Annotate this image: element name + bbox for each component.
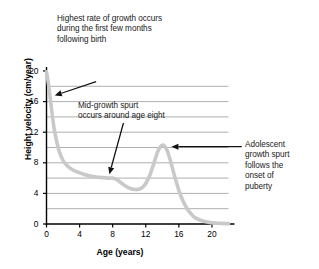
mid-growth-annotation-arrow-shaft — [111, 123, 123, 168]
infancy-annotation-arrow-shaft — [61, 82, 96, 94]
infancy-annotation-arrow-head — [55, 90, 63, 96]
y-tick-label: 16 — [23, 96, 39, 106]
x-tick-label: 20 — [204, 229, 220, 239]
y-tick-label: 20 — [23, 66, 39, 76]
x-tick-label: 16 — [171, 229, 187, 239]
adolescent-annotation-arrow-head — [171, 144, 178, 150]
growth-velocity-chart-page: { "chart_data": { "type": "line", "title… — [0, 0, 319, 269]
x-tick-label: 8 — [105, 229, 121, 239]
mid-growth-annotation-text: Mid-growth spurt occurs around age eight — [78, 101, 165, 122]
annotation-arrows-group — [55, 82, 242, 175]
x-tick-label: 0 — [39, 229, 55, 239]
x-tick-label: 4 — [72, 229, 88, 239]
y-tick-label: 0 — [23, 219, 39, 229]
tickmarks-group — [43, 71, 212, 228]
infancy-annotation-text: Highest rate of growth occurs during the… — [57, 14, 162, 45]
x-tick-label: 12 — [138, 229, 154, 239]
x-axis-label: Age (years) — [0, 247, 240, 257]
y-tick-label: 4 — [23, 188, 39, 198]
adolescent-annotation-text: Adolescent growth spurt follows the onse… — [245, 140, 289, 192]
mid-growth-annotation-arrow-head — [108, 167, 114, 175]
y-tick-label: 8 — [23, 157, 39, 167]
y-tick-label: 12 — [23, 127, 39, 137]
